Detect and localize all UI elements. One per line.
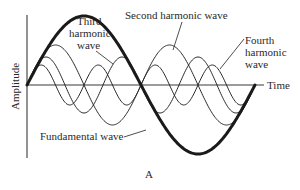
harmonics-diagram: Time Amplitude Third harmonic wave Secon… <box>0 0 300 190</box>
third-harmonic-label-line1: Third <box>77 15 102 27</box>
fourth-harmonic-pointer <box>220 39 244 69</box>
fundamental-wave-pointer <box>124 130 146 137</box>
third-harmonic-label-line2: harmonic <box>69 27 111 39</box>
fourth-harmonic-label-line2: harmonic <box>245 46 287 58</box>
time-axis-label: Time <box>267 79 290 91</box>
second-harmonic-label: Second harmonic wave <box>125 9 228 21</box>
third-harmonic-pointer <box>96 51 113 64</box>
fourth-harmonic-label-line1: Fourth <box>245 34 275 46</box>
second-harmonic-pointer <box>173 22 182 50</box>
amplitude-axis-label: Amplitude <box>9 63 21 110</box>
third-harmonic-label-line3: wave <box>77 39 100 51</box>
figure-caption: A <box>145 168 153 180</box>
fundamental-wave-label: Fundamental wave <box>40 130 124 142</box>
fourth-harmonic-label-line3: wave <box>245 58 268 70</box>
